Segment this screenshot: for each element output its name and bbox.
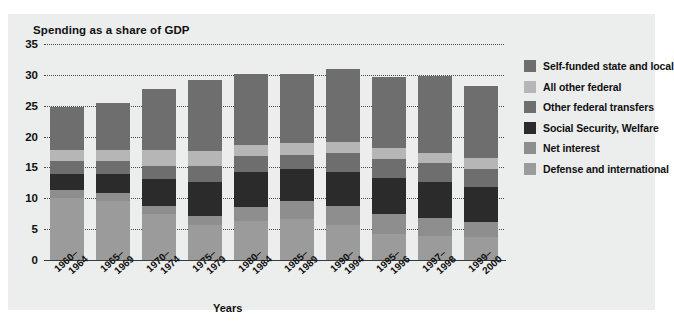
- bar-segment: [188, 182, 222, 217]
- bar-segment: [142, 179, 176, 206]
- legend-item[interactable]: Defense and international: [524, 159, 664, 180]
- bar-segment: [50, 190, 84, 198]
- bar-segment: [464, 86, 498, 158]
- legend-item[interactable]: Net interest: [524, 138, 664, 159]
- bar-stack[interactable]: [234, 74, 268, 260]
- bar-segment: [234, 74, 268, 145]
- bar-segment: [96, 174, 130, 193]
- y-axis-tick-label: 5: [12, 223, 38, 235]
- legend-item[interactable]: Self-funded state and local: [524, 56, 664, 77]
- bar-segment: [464, 222, 498, 237]
- bar-segment: [234, 156, 268, 172]
- legend-label: Other federal transfers: [543, 101, 654, 113]
- bar-segment: [142, 206, 176, 214]
- legend-item[interactable]: Other federal transfers: [524, 97, 664, 118]
- legend-label: Net interest: [543, 142, 600, 154]
- bar-segment: [418, 163, 452, 182]
- y-axis-tick-label: 10: [12, 192, 38, 204]
- legend-label: Social Security, Welfare: [543, 122, 659, 134]
- legend-swatch-icon: [524, 122, 536, 134]
- bar-segment: [326, 206, 360, 225]
- bar-segment: [326, 69, 360, 142]
- bar-segment: [50, 107, 84, 150]
- bar-segment: [464, 187, 498, 222]
- legend-swatch-icon: [524, 101, 536, 113]
- bar-segment: [280, 143, 314, 154]
- bar-segment: [280, 155, 314, 170]
- chart-title: Spending as a share of GDP: [33, 24, 190, 36]
- y-axis-tick-label: 25: [12, 100, 38, 112]
- legend-swatch-icon: [524, 60, 536, 72]
- bar-segment: [188, 80, 222, 151]
- y-axis-tick-label: 20: [12, 131, 38, 143]
- bar-segment: [372, 178, 406, 214]
- bar-segment: [142, 166, 176, 180]
- y-axis-tick-label: 35: [12, 38, 38, 50]
- bar-segment: [142, 150, 176, 165]
- y-axis-tick-label: 15: [12, 161, 38, 173]
- bar-stack[interactable]: [418, 76, 452, 260]
- bar-segment: [326, 172, 360, 207]
- legend-swatch-icon: [524, 163, 536, 175]
- bar-stack[interactable]: [326, 69, 360, 260]
- bar-segment: [188, 166, 222, 182]
- legend-item[interactable]: All other federal: [524, 77, 664, 98]
- plot-area: 05101520253035: [44, 44, 504, 260]
- bar-segment: [234, 207, 268, 221]
- x-axis-title: Years: [213, 302, 242, 314]
- bar-segment: [280, 169, 314, 200]
- bar-segment: [96, 150, 130, 162]
- bar-segment: [372, 214, 406, 234]
- bar-stack[interactable]: [280, 74, 314, 260]
- bar-segment: [280, 201, 314, 220]
- bar-stack[interactable]: [96, 103, 130, 260]
- bar-segment: [464, 169, 498, 187]
- bar-segment: [280, 74, 314, 144]
- bar-segment: [50, 161, 84, 173]
- bar-segment: [326, 153, 360, 172]
- bar-segment: [142, 89, 176, 150]
- bar-segment: [464, 158, 498, 168]
- bar-stack[interactable]: [188, 80, 222, 260]
- bar-stack[interactable]: [464, 86, 498, 260]
- bar-segment: [96, 103, 130, 149]
- bar-stack[interactable]: [50, 107, 84, 260]
- bar-segment: [188, 216, 222, 225]
- y-axis-tick-label: 0: [12, 254, 38, 266]
- legend-swatch-icon: [524, 81, 536, 93]
- legend-item[interactable]: Social Security, Welfare: [524, 118, 664, 139]
- bar-segment: [50, 150, 84, 161]
- legend-label: Defense and international: [543, 163, 669, 175]
- bar-segment: [372, 77, 406, 148]
- chart-figure: Spending as a share of GDP 0510152025303…: [8, 14, 655, 310]
- legend-swatch-icon: [524, 142, 536, 154]
- bar-segment: [96, 193, 130, 201]
- bar-stack[interactable]: [372, 77, 406, 260]
- legend-label: All other federal: [543, 81, 621, 93]
- bar-segment: [372, 159, 406, 178]
- bar-segment: [326, 142, 360, 153]
- y-axis-tick-label: 30: [12, 69, 38, 81]
- bar-segment: [234, 172, 268, 207]
- bar-segment: [418, 218, 452, 236]
- legend-label: Self-funded state and local: [543, 60, 674, 72]
- bar-segment: [418, 182, 452, 218]
- gridline: [44, 44, 504, 45]
- bar-segment: [96, 161, 130, 173]
- bar-segment: [234, 145, 268, 157]
- bar-segment: [372, 148, 406, 158]
- bar-segment: [418, 76, 452, 153]
- bar-segment: [50, 174, 84, 191]
- bar-segment: [188, 151, 222, 166]
- chart-legend: Self-funded state and localAll other fed…: [524, 56, 664, 179]
- bar-segment: [418, 153, 452, 163]
- bar-stack[interactable]: [142, 89, 176, 260]
